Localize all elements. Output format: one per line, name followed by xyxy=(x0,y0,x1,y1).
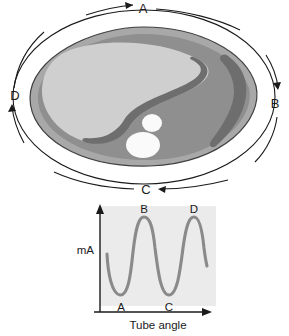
orbit-label-d: D xyxy=(10,88,19,103)
orbit-arc-a-right xyxy=(156,9,240,30)
orbit-label-c: C xyxy=(141,182,150,197)
ma-vs-tube-angle-plot: A B C D mA Tube angle xyxy=(0,196,289,336)
orbit-arrow-d xyxy=(8,104,24,143)
plot-label-d: D xyxy=(190,203,198,215)
plot-label-b: B xyxy=(140,203,148,215)
plot-label-c: C xyxy=(165,301,173,313)
plot-label-a: A xyxy=(117,301,125,313)
x-axis xyxy=(94,308,212,316)
orbit-label-b: B xyxy=(271,96,280,111)
orbit-label-a: A xyxy=(139,1,148,16)
x-axis-label: Tube angle xyxy=(129,319,186,331)
orbit-arc-c-left xyxy=(54,172,134,189)
vertebral-body xyxy=(126,132,160,158)
spinal-canal xyxy=(142,114,162,132)
y-axis-label: mA xyxy=(77,244,95,256)
ct-cross-section-figure: A B C D xyxy=(0,0,289,198)
